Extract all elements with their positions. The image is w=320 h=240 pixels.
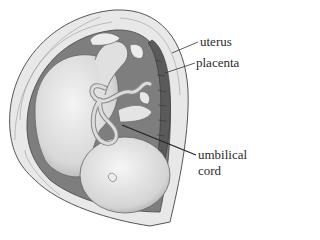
label-cord: cord: [198, 164, 221, 178]
label-placenta: placenta: [196, 56, 239, 70]
fetal-head: [80, 137, 170, 213]
label-umbilical: umbilical: [198, 148, 247, 162]
label-uterus: uterus: [200, 35, 232, 49]
